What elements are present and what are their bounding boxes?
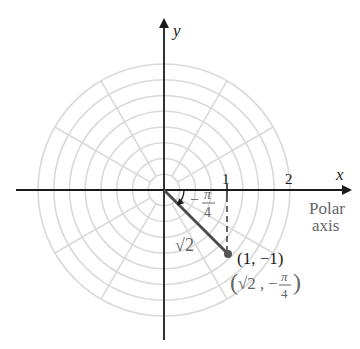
tick-label-2: 2 (285, 171, 293, 187)
x-axis-label: x (335, 165, 344, 184)
polar-diagram: y x 1 2 Polar axis − π 4 √2 (1, −1) ( √2… (0, 0, 360, 349)
radius-label: √2 (175, 235, 194, 255)
polar-axis-label-line2: axis (312, 216, 339, 235)
y-axis-label: y (171, 21, 181, 40)
tick-label-1: 1 (222, 171, 230, 187)
point-1-neg1 (224, 250, 232, 258)
polar-label-sign: − (268, 274, 278, 293)
polar-label-theta-num: π (281, 269, 288, 284)
polar-coordinates-label: ( √2 , − π 4 ) (230, 269, 301, 301)
angle-sign: − (190, 191, 199, 208)
angle-numerator: π (204, 187, 212, 202)
polar-label-theta-den: 4 (281, 286, 288, 301)
cartesian-coordinates-label: (1, −1) (237, 249, 283, 268)
angle-denominator: 4 (204, 205, 211, 220)
polar-label-r: √2 (238, 274, 256, 293)
polar-label-open-paren: ( (230, 269, 238, 295)
polar-label-close-paren: ) (293, 269, 301, 295)
polar-label-comma: , (260, 274, 264, 293)
